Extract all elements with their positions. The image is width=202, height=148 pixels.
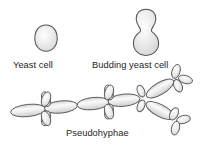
figure-root: Yeast cell Budding yeast cell Pseudohyph… <box>0 0 202 148</box>
yeast-morphology-diagram <box>0 0 202 148</box>
blastoconidia-cluster-terminal-lower <box>167 106 191 136</box>
label-yeast-cell: Yeast cell <box>13 60 53 71</box>
yeast-cell-shape <box>35 25 57 51</box>
hypha-cell <box>10 103 46 119</box>
label-pseudohyphae: Pseudohyphae <box>66 128 129 139</box>
hypha-cell-branch-upper <box>144 75 177 101</box>
pseudohyphae-chain <box>10 75 177 123</box>
blastoconidium <box>170 120 181 136</box>
pseudohyphae-shape <box>10 63 194 136</box>
budding-yeast-cell-shape <box>133 9 158 55</box>
label-budding-yeast-cell: Budding yeast cell <box>92 60 168 71</box>
blastoconidia-cluster-terminal-upper <box>170 63 194 93</box>
